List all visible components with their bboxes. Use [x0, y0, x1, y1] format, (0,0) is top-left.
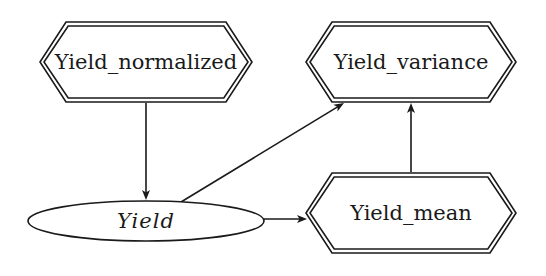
- edge-yield-to-yield-mean: [264, 215, 307, 223]
- node-label: Yield_mean: [349, 201, 472, 225]
- node-label: Yield_normalized: [54, 50, 237, 74]
- edge-yield-mean-to-yield-variance: [407, 103, 415, 172]
- node-yield-variance: Yield_variance: [306, 22, 516, 102]
- edge-yield-to-yield-variance: [181, 103, 344, 202]
- node-yield: Yield: [28, 201, 264, 241]
- arrowhead-icon: [333, 103, 344, 112]
- dependency-graph: Yield_normalizedYield_varianceYieldYield…: [0, 0, 546, 276]
- node-label: Yield_variance: [333, 50, 489, 74]
- node-yield-mean: Yield_mean: [306, 173, 516, 253]
- node-yield-normalized: Yield_normalized: [40, 22, 252, 102]
- edge-yield-normalized-to-yield: [142, 103, 150, 200]
- node-label: Yield: [117, 209, 175, 233]
- edge-line: [181, 107, 338, 202]
